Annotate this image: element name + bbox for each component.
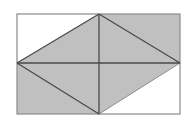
geometry-figure — [0, 0, 195, 115]
